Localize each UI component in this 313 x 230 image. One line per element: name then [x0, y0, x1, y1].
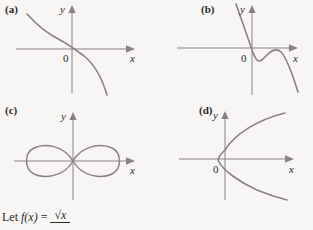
figure-grid: (a) 0 x y (b) 0 x y [0, 0, 313, 230]
origin-label: 0 [241, 52, 247, 64]
origin-label: 0 [213, 163, 219, 175]
plot-d: 0 x y [157, 100, 313, 205]
y-axis-label: y [59, 3, 65, 15]
figure-panel-b: (b) 0 x y [157, 0, 313, 100]
x-axis-label: x [292, 52, 298, 64]
caption-prefix: Let [2, 210, 18, 224]
caption-text: Let f(x) = √x [2, 210, 70, 227]
caption-function: f(x) [21, 210, 38, 224]
curve-path [218, 113, 287, 200]
plot-c: x y [0, 100, 157, 205]
plot-b: 0 x y [157, 0, 313, 100]
caption-equals: = [41, 210, 48, 224]
figure-panel-a: (a) 0 x y [0, 0, 157, 100]
fraction-numerator: √x [50, 209, 70, 223]
x-axis-label: x [129, 164, 135, 176]
x-axis-label: x [288, 163, 294, 175]
plot-a: 0 x y [0, 0, 157, 100]
figure-panel-c: (c) x y [0, 100, 157, 205]
y-axis-arrow [221, 111, 228, 119]
origin-label: 0 [63, 52, 69, 64]
y-axis-label: y [212, 109, 218, 121]
y-axis-arrow [68, 5, 75, 13]
y-axis-arrow [69, 112, 76, 120]
y-axis-label: y [239, 3, 245, 15]
figure-panel-d: (d) 0 x y [157, 100, 313, 205]
caption-fraction: √x [50, 209, 70, 223]
y-axis-arrow [248, 5, 255, 13]
x-axis-arrow [289, 44, 298, 52]
x-axis-label: x [129, 52, 135, 64]
x-axis-arrow [285, 155, 294, 163]
y-axis-label: y [60, 110, 66, 122]
